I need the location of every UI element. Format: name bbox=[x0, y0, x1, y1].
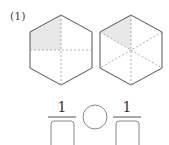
left-numerator: 1 bbox=[52, 99, 72, 115]
shaded-sixth bbox=[100, 15, 131, 50]
hexagon-figures bbox=[0, 0, 169, 145]
left-denominator-box bbox=[51, 121, 74, 145]
right-numerator: 1 bbox=[117, 99, 137, 115]
hexagon-sixths bbox=[100, 15, 162, 85]
hexagon-quarters bbox=[30, 15, 92, 85]
right-denominator-box bbox=[116, 121, 139, 145]
comparison-circle bbox=[83, 105, 107, 129]
shaded-quarter bbox=[30, 15, 61, 50]
